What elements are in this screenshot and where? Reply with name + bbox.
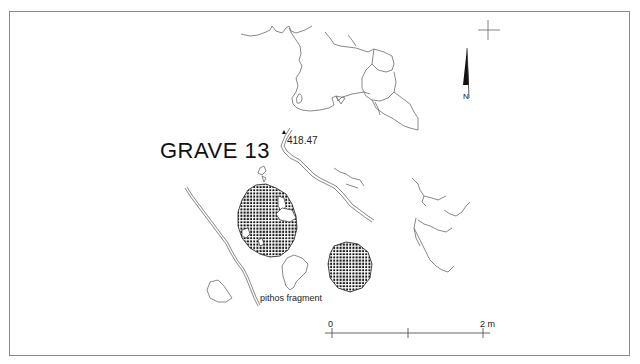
grave-pit-small: [328, 242, 372, 292]
scale-end-label: 2 m: [480, 320, 495, 329]
scale-bar: [325, 328, 490, 338]
pithos-fragment-label: pithos fragment: [260, 294, 322, 303]
elevation-point-icon: [282, 130, 286, 134]
right-outlines: [412, 178, 470, 272]
grave-pit-large: [238, 184, 297, 257]
elevation-label: 418.47: [287, 136, 318, 146]
grid-cross-icon: [478, 20, 500, 40]
north-label: N: [463, 93, 469, 101]
bedrock-outlines: [241, 26, 418, 130]
grave-title: GRAVE 13: [160, 140, 270, 162]
scale-start-label: 0: [328, 320, 333, 329]
grave-plan-drawing: [0, 0, 640, 364]
north-arrow-icon: [463, 48, 469, 98]
